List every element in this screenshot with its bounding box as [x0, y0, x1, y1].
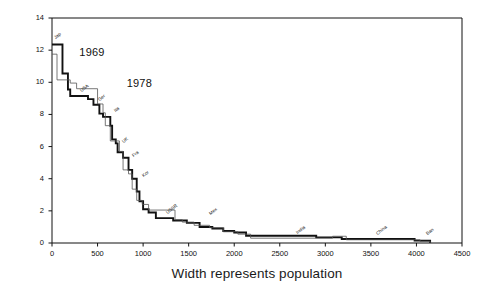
y-tick-label: 6: [22, 142, 44, 151]
x-tick-label: 4500: [445, 249, 479, 258]
x-tick-label: 500: [81, 249, 115, 258]
y-tick-label: 2: [22, 206, 44, 215]
x-tick-label: 1500: [172, 249, 206, 258]
x-tick-label: 2000: [217, 249, 251, 258]
x-tick-label: 1000: [126, 249, 160, 258]
plot-frame: [52, 18, 462, 243]
y-tick-label: 0: [22, 238, 44, 247]
annotation-1978: 1978: [127, 77, 152, 89]
annotation-1969: 1969: [79, 46, 104, 58]
y-tick-label: 4: [22, 174, 44, 183]
y-tick-label: 14: [22, 13, 44, 22]
y-tick-label: 12: [22, 45, 44, 54]
x-tick-label: 4000: [399, 249, 433, 258]
y-tick-label: 8: [22, 109, 44, 118]
x-tick-label: 2500: [263, 249, 297, 258]
x-tick-label: 3500: [354, 249, 388, 258]
series-line-1978: [52, 54, 430, 243]
wage-distribution-chart: Hourly wages (1985 dollars) Width repres…: [0, 0, 483, 294]
x-tick-label: 3000: [308, 249, 342, 258]
x-tick-label: 0: [35, 249, 69, 258]
y-tick-label: 10: [22, 77, 44, 86]
series-line-1969: [52, 45, 430, 243]
